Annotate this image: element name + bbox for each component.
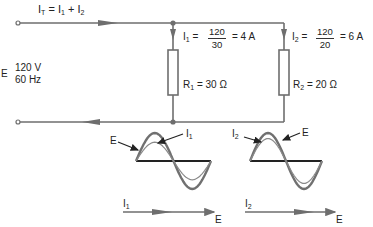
return-current-arrow [82,119,100,125]
phasor2-mid-arrow [294,209,314,215]
branch1-denominator: 30 [208,39,226,50]
resistor-r2 [279,50,289,95]
branch2-numerator: 120 [316,27,334,39]
i2-eq: = [301,31,307,42]
phasor2-voltage-label: E [336,215,343,225]
branch2-result: = 6 A [340,32,363,42]
branch1-result: = 4 A [232,32,255,42]
i1-eq: = [192,31,198,42]
i1-sub: 1 [186,36,190,43]
r2-value: = 20 Ω [307,79,337,90]
total-current-arrow [98,20,118,26]
branch2-denominator: 20 [316,39,334,50]
r1-sub: 1 [190,84,194,91]
phasor2-current-label: I2 [245,199,252,210]
branch2-current-arrow [281,29,287,40]
source-voltage: 120 V [15,63,41,73]
source-terminal-bottom [16,120,20,124]
branch1-fraction: 120 30 [208,27,226,49]
eq-i1-sub: 1 [61,9,65,16]
source-frequency: 60 Hz [15,75,41,85]
source-label: E [1,69,8,79]
ph2-i-sub: 2 [248,203,252,210]
waveform-branch2 [244,133,322,189]
waveform-branch1 [118,133,211,189]
resistor-r1 [168,50,178,95]
branch1-numerator: 120 [208,27,226,39]
branch2-current-label: I2 = [292,32,307,43]
branch2-fraction: 120 20 [316,27,334,49]
waveform1-current-label: I1 [186,129,193,140]
resistor-r1-label: R1 = 30 Ω [183,80,227,91]
ph1-i-sub: 1 [126,203,130,210]
waveform2-voltage-label: E [302,128,309,138]
waveform2-current-label: I2 [232,129,239,140]
total-current-equation: IT = I1 + I2 [38,4,84,16]
branch1-current-arrow [170,29,176,40]
waveform1-e-pointer [118,142,138,150]
eq-it-sub: T [41,9,45,16]
r1-value: = 30 Ω [197,79,227,90]
phasor1-current-label: I1 [123,199,130,210]
branch1-current-label: I1 = [183,32,198,43]
parallel-circuit-diagram: IT = I1 + I2 E 120 V 60 Hz I1 = 120 30 =… [0,0,373,227]
r2-sub: 2 [300,84,304,91]
i2-sub: 2 [295,36,299,43]
eq-i2-sub: 2 [81,9,85,16]
phasor1-voltage-label: E [215,215,222,225]
waveform2-e-pointer [283,133,300,140]
source-terminal-top [16,21,20,25]
phasor1-mid-arrow [152,209,172,215]
eq-sign: = [48,3,54,15]
resistor-r2-label: R2 = 20 Ω [293,80,337,91]
wf1-i-sub: 1 [189,133,193,140]
waveform2-i-pointer [244,137,261,142]
eq-plus: + [68,3,74,15]
wf2-i-sub: 2 [235,133,239,140]
waveform1-voltage-label: E [110,136,117,146]
